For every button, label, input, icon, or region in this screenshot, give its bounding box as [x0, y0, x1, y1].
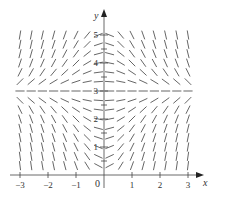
slope-segment [141, 125, 145, 132]
slope-segment [128, 99, 136, 102]
slope-segment [175, 115, 178, 123]
slope-segment [163, 106, 168, 113]
slope-segment [105, 100, 113, 101]
y-axis-label: y [93, 10, 99, 21]
slope-segment [62, 60, 67, 67]
slope-segment [139, 99, 147, 103]
slope-segment [19, 162, 20, 170]
slope-segment [117, 71, 125, 74]
slope-segment [63, 31, 66, 39]
slope-segment [165, 143, 167, 151]
slope-segment [141, 116, 146, 123]
slope-segment [176, 134, 178, 142]
slope-segment [74, 134, 78, 141]
slope-segment [152, 69, 157, 75]
y-tick-label: 1 [94, 142, 99, 152]
slope-segment [41, 115, 44, 123]
slope-segment [129, 50, 134, 57]
slope-segment [41, 124, 44, 132]
slope-segment [139, 80, 147, 84]
y-ticks: 12345 [94, 30, 109, 161]
slope-segment [106, 43, 114, 46]
slope-segment [63, 50, 67, 57]
slope-segment [94, 127, 102, 129]
slope-segment [83, 100, 91, 102]
slope-segment [19, 40, 21, 48]
slope-segment [83, 71, 91, 74]
slope-segment [85, 162, 89, 169]
x-tick-label: 1 [130, 180, 135, 190]
slope-segment [176, 143, 178, 151]
slope-segment [84, 135, 90, 141]
slope-segment [73, 60, 79, 66]
slope-segment [187, 115, 190, 123]
slope-segment [61, 99, 69, 103]
slope-segment [117, 100, 125, 102]
slope-segment [28, 98, 34, 104]
slope-segment [142, 40, 145, 48]
slope-segment [61, 80, 69, 84]
slope-segment [39, 98, 46, 103]
slope-segment [29, 106, 33, 113]
slope-segment [18, 69, 22, 77]
slope-segment [17, 79, 23, 85]
slope-segment [42, 162, 43, 170]
slope-segment [129, 116, 135, 122]
y-tick-label: 2 [94, 114, 99, 124]
slope-segment [51, 69, 56, 75]
slope-segment [186, 69, 190, 77]
slope-segment [41, 59, 44, 67]
slope-segment [152, 59, 156, 66]
slope-segment [174, 98, 180, 104]
slope-segment [30, 124, 32, 132]
slope-segment [153, 31, 155, 39]
slope-segment [187, 162, 188, 170]
slope-segment [63, 143, 66, 151]
slope-segment [85, 144, 90, 150]
slope-segment [52, 40, 55, 48]
slope-segment [140, 69, 146, 75]
slope-segment [141, 60, 146, 67]
slope-segment [129, 70, 136, 75]
slope-segment [19, 134, 21, 142]
slope-segment [74, 41, 78, 48]
slope-segment [187, 134, 189, 142]
slope-segment [142, 143, 145, 151]
slope-segment [105, 72, 113, 73]
slope-segment [50, 98, 57, 102]
slope-segment [176, 162, 177, 170]
slope-segment [29, 69, 33, 76]
slope-segment [164, 134, 166, 142]
x-tick-label: −3 [15, 180, 25, 190]
slope-segment [73, 50, 78, 57]
slope-segment [140, 107, 146, 113]
slope-segment [187, 40, 189, 48]
slope-segment [118, 32, 123, 38]
slope-segment [40, 69, 45, 76]
slope-segment [130, 41, 134, 48]
slope-segment [154, 162, 156, 170]
origin-label: 0 [95, 178, 100, 189]
slope-segment [62, 69, 68, 75]
slope-segment [165, 31, 167, 39]
slope-segment [94, 72, 102, 73]
slope-segment [94, 81, 102, 82]
slope-segment [117, 81, 125, 83]
slope-segment [153, 143, 155, 151]
slope-segment [94, 100, 102, 101]
slope-segment [165, 162, 166, 170]
slope-segment [175, 69, 179, 76]
x-tick-label: 2 [158, 180, 163, 190]
slope-segment [105, 81, 113, 82]
slope-segment [31, 162, 32, 170]
slope-segment [30, 31, 32, 39]
slope-segment [129, 125, 134, 132]
slope-segment [63, 134, 66, 142]
slope-segment [52, 31, 54, 39]
slope-segment [176, 152, 177, 160]
slope-segment [84, 51, 91, 56]
slope-segment [131, 162, 134, 170]
slope-segment [83, 81, 91, 83]
slope-segment [51, 106, 56, 112]
slope-segment [187, 152, 188, 160]
